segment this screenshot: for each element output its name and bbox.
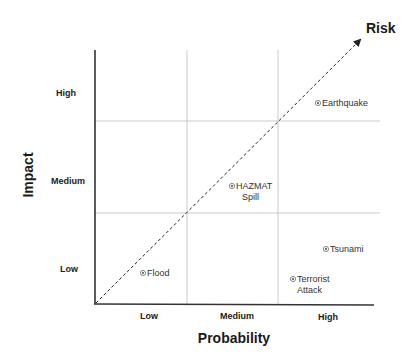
point-label-line1: HAZMAT [236, 181, 273, 191]
risk-matrix-chart: Risk High Medium Low Low Medium High Pro… [0, 0, 404, 360]
point-terrorist-attack: Terrorist Attack [290, 274, 330, 295]
x-tick-medium: Medium [220, 311, 254, 321]
x-tick-high: High [318, 312, 338, 322]
point-earthquake: Earthquake [315, 98, 368, 108]
point-label-line2: Attack [297, 285, 323, 295]
marker-dot-icon [292, 278, 294, 280]
point-flood: Flood [140, 268, 169, 278]
point-label-line2: Spill [242, 192, 259, 202]
point-hazmat-spill: HAZMAT Spill [229, 181, 272, 202]
point-label: Flood [147, 268, 170, 278]
y-tick-medium: Medium [51, 176, 85, 186]
risk-label: Risk [366, 20, 396, 36]
point-tsunami: Tsunami [323, 244, 363, 254]
marker-dot-icon [325, 248, 327, 250]
y-axis-title: Impact [20, 152, 36, 197]
marker-dot-icon [142, 272, 144, 274]
point-label: Tsunami [330, 244, 364, 254]
grid-lines [95, 50, 380, 304]
y-tick-low: Low [60, 264, 79, 274]
y-tick-high: High [56, 88, 76, 98]
x-axis-line [94, 304, 374, 305]
marker-dot-icon [317, 102, 319, 104]
point-label-line1: Terrorist [297, 274, 330, 284]
x-tick-low: Low [140, 311, 159, 321]
risk-arrow [96, 40, 360, 303]
marker-dot-icon [231, 185, 233, 187]
x-axis-title: Probability [198, 330, 271, 346]
point-label: Earthquake [322, 98, 368, 108]
